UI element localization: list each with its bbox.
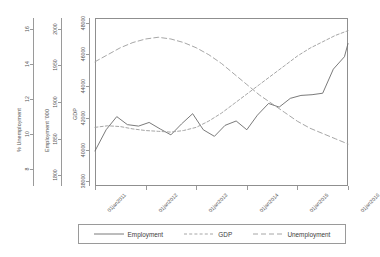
series-line-gdp [95,31,348,132]
legend-swatch-unemployment-icon [253,231,283,237]
legend-label-gdp: GDP [218,231,232,238]
series-line-unemployment [95,37,348,144]
legend-swatch-gdp-icon [184,231,214,237]
legend-label-unemployment: Unemployment [287,231,330,238]
legend-swatch-employment-icon [94,231,124,237]
series-line-employment [95,44,348,151]
legend-item-gdp[interactable]: GDP [184,231,232,238]
x-tick-label-5: 01jan2016 [359,192,380,213]
legend-item-unemployment[interactable]: Unemployment [253,231,330,238]
legend-item-employment[interactable]: Employment [94,231,164,238]
chart-legend: EmploymentGDPUnemployment [78,224,346,244]
legend-label-employment: Employment [128,231,164,238]
